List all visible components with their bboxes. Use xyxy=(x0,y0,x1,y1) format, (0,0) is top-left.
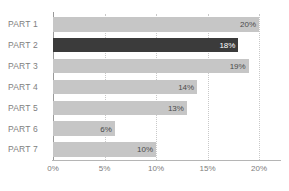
table-row: PART 3 19% xyxy=(0,56,289,77)
x-tick-label-0: 0% xyxy=(47,164,59,173)
bar-part-2[interactable]: 18% xyxy=(53,38,238,52)
x-axis-line xyxy=(52,160,281,161)
x-axis-ticks: 0% 5% 10% 15% 20% xyxy=(0,164,289,180)
category-label-2: PART 2 xyxy=(8,40,38,50)
category-label-4: PART 4 xyxy=(8,82,38,92)
bar-part-6[interactable]: 6% xyxy=(53,121,115,135)
category-label-7: PART 7 xyxy=(8,144,38,154)
bar-track-6: 6% xyxy=(53,118,289,139)
bar-part-4[interactable]: 14% xyxy=(53,80,197,94)
category-label-3: PART 3 xyxy=(8,61,38,71)
category-label-6: PART 6 xyxy=(8,124,38,134)
bar-rows: PART 1 20% PART 2 18% PART 3 19% xyxy=(0,14,289,160)
bar-track-1: 20% xyxy=(53,14,289,35)
x-tick-label-15: 15% xyxy=(199,164,215,173)
bar-value-1: 20% xyxy=(240,20,256,29)
category-label-1: PART 1 xyxy=(8,19,38,29)
bar-value-4: 14% xyxy=(178,82,194,91)
table-row: PART 6 6% xyxy=(0,118,289,139)
x-tick-label-5: 5% xyxy=(99,164,111,173)
bar-part-5[interactable]: 13% xyxy=(53,101,187,115)
category-label-5: PART 5 xyxy=(8,103,38,113)
bar-track-5: 13% xyxy=(53,97,289,118)
bar-part-1[interactable]: 20% xyxy=(53,17,259,31)
bar-track-7: 10% xyxy=(53,139,289,160)
x-tick-label-10: 10% xyxy=(148,164,164,173)
bar-value-7: 10% xyxy=(137,145,153,154)
bar-track-4: 14% xyxy=(53,77,289,98)
table-row: PART 1 20% xyxy=(0,14,289,35)
table-row: PART 5 13% xyxy=(0,97,289,118)
table-row: PART 2 18% xyxy=(0,35,289,56)
bar-part-3[interactable]: 19% xyxy=(53,59,249,73)
bar-value-6: 6% xyxy=(100,124,112,133)
bar-value-5: 13% xyxy=(168,103,184,112)
bar-chart: PART 1 20% PART 2 18% PART 3 19% xyxy=(0,0,289,191)
table-row: PART 4 14% xyxy=(0,77,289,98)
bar-track-3: 19% xyxy=(53,56,289,77)
table-row: PART 7 10% xyxy=(0,139,289,160)
bar-value-2: 18% xyxy=(219,41,235,50)
bar-value-3: 19% xyxy=(230,62,246,71)
bar-track-2: 18% xyxy=(53,35,289,56)
bar-part-7[interactable]: 10% xyxy=(53,142,156,156)
x-tick-label-20: 20% xyxy=(251,164,267,173)
